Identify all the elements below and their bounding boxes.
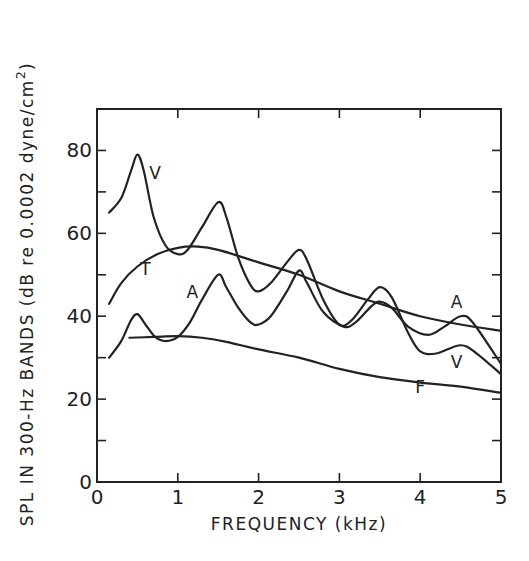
curve-label-a: A (451, 292, 463, 312)
y-tick-label: 0 (79, 470, 92, 494)
x-tick-labels: 012345 (91, 485, 508, 509)
curve-label-f: F (415, 377, 425, 397)
curve-label-a: A (187, 282, 199, 302)
curve-label-v: V (149, 163, 161, 183)
x-tick-label: 0 (91, 485, 104, 509)
x-tick-label: 3 (333, 485, 346, 509)
y-tick-label: 40 (67, 304, 92, 328)
y-axis-title: SPL IN 300-Hz BANDS (dB re 0.0002 dyne/c… (14, 62, 37, 526)
y-tick-label: 60 (67, 221, 92, 245)
x-tick-label: 4 (414, 485, 427, 509)
x-tick-label: 1 (171, 485, 184, 509)
chart-canvas: 012345 020406080 VVAATF FREQUENCY (kHz) … (0, 0, 529, 561)
y-axis-title-main: SPL IN 300-Hz BANDS (dB re 0.0002 dyne/c… (17, 79, 37, 526)
y-tick-label: 80 (67, 138, 92, 162)
curve-a (109, 270, 501, 363)
curve-t (109, 246, 501, 330)
y-tick-labels: 020406080 (67, 138, 92, 494)
curve-labels: VVAATF (139, 163, 462, 396)
x-tick-label: 5 (495, 485, 508, 509)
curve-label-v: V (451, 352, 463, 372)
x-tick-label: 2 (252, 485, 265, 509)
x-axis-title: FREQUENCY (kHz) (211, 514, 387, 534)
data-curves (109, 155, 501, 393)
curve-label-t: T (139, 259, 151, 279)
curve-f (129, 336, 501, 393)
y-tick-label: 20 (67, 387, 92, 411)
y-axis-title-close: ) (17, 62, 37, 70)
y-axis-title-superscript: 2 (14, 70, 28, 79)
